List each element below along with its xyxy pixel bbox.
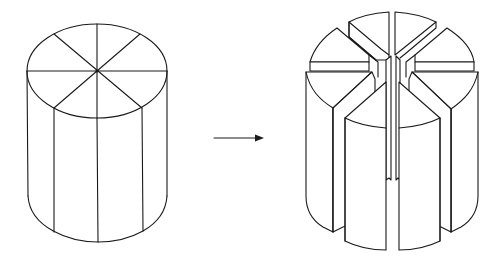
side-line-center [97, 118, 98, 242]
center-strips [386, 56, 400, 180]
side-line-right [142, 108, 143, 231]
center-point [95, 69, 98, 72]
cylinder-left-side [27, 71, 28, 196]
diagram-canvas: Cylinder divided into eight sectors tran… [0, 0, 503, 264]
split-cylinder [306, 12, 478, 250]
whole-cylinder [27, 24, 167, 242]
transform-arrow-icon [214, 135, 264, 142]
